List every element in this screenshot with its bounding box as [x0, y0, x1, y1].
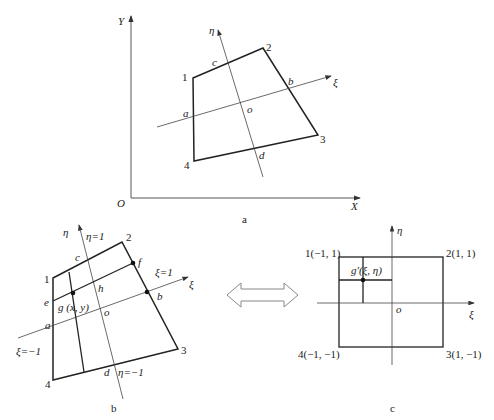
point-b: b	[157, 290, 163, 302]
point-h: h	[98, 282, 104, 294]
point-d: d	[259, 149, 265, 161]
point-a: a	[45, 319, 51, 331]
eta-label: η	[209, 24, 214, 36]
caption-c: c	[390, 402, 395, 414]
xi-axis	[157, 76, 331, 127]
node-4: 4(−1, −1)	[298, 348, 340, 361]
eta-label: η	[397, 224, 402, 236]
point-f: f	[138, 256, 143, 268]
point-o: o	[396, 303, 402, 315]
node-4: 4	[45, 378, 51, 390]
y-axis-label: Y	[118, 15, 126, 27]
node-2: 2	[266, 41, 272, 53]
point-e: e	[44, 296, 49, 308]
point-f-dot	[131, 261, 136, 266]
xi-label: ξ	[189, 278, 194, 291]
node-3: 3	[320, 133, 326, 145]
point-o: o	[104, 306, 110, 318]
figure-a: Y X O η ξ 1 2 3 4 a b c d o a	[117, 15, 360, 225]
point-g-prime-dot	[361, 278, 366, 283]
finite-element-mapping-diagram: Y X O η ξ 1 2 3 4 a b c d o a η ξ 1 2 3	[0, 0, 494, 420]
point-a: a	[183, 107, 189, 119]
iso-line-ef	[53, 263, 133, 301]
point-c: c	[75, 251, 80, 263]
node-2: 2	[126, 231, 132, 243]
figure-c: η ξ g′(ξ, η) o 1(−1, 1) 2(1, 1) 3(1, −1)…	[298, 224, 482, 414]
xi-label: ξ	[469, 308, 474, 321]
point-g-prime: g′(ξ, η)	[351, 264, 382, 277]
node-1: 1	[44, 273, 50, 285]
iso-label-xi-neg: ξ=−1	[16, 345, 41, 358]
point-g: g (x, y)	[58, 301, 89, 314]
iso-label-eta-pos: η=1	[86, 230, 104, 242]
point-c: c	[212, 56, 217, 68]
caption-a: a	[242, 213, 247, 225]
eta-label: η	[63, 226, 68, 238]
caption-b: b	[111, 402, 117, 414]
double-arrow-icon	[227, 283, 298, 307]
point-b: b	[288, 75, 294, 87]
figure-b: η ξ 1 2 3 4 a b c d o e f h g (x, y) η=1…	[16, 225, 194, 414]
node-1: 1(−1, 1)	[305, 247, 341, 260]
iso-label-eta-neg: η=−1	[118, 366, 144, 378]
origin-label: O	[117, 197, 125, 209]
node-3: 3	[181, 344, 187, 356]
node-4: 4	[184, 159, 190, 171]
node-1: 1	[182, 71, 188, 83]
point-g-dot	[71, 291, 76, 296]
x-axis-label: X	[350, 200, 359, 212]
xi-label: ξ	[333, 76, 338, 89]
point-o: o	[247, 103, 253, 115]
node-2: 2(1, 1)	[446, 247, 476, 260]
iso-label-xi-pos: ξ=1	[155, 266, 173, 279]
node-3: 3(1, −1)	[446, 348, 482, 361]
point-d: d	[104, 366, 110, 378]
point-b-dot	[145, 290, 150, 295]
